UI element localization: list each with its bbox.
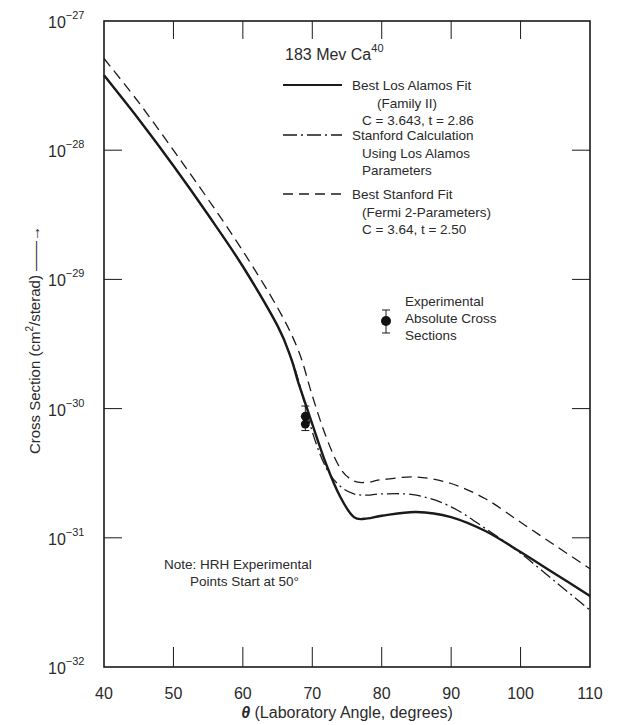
curve-solid xyxy=(104,75,590,596)
legend: Best Los Alamos Fit(Family II)C = 3.643,… xyxy=(283,78,491,237)
legend-text: Best Stanford Fit xyxy=(352,187,453,202)
y-axis-label: Cross Section (cm2/sterad) ——→ xyxy=(24,226,43,454)
x-axis-ticks: 405060708090100110 xyxy=(95,21,603,702)
y-tick-label: 10−27 xyxy=(48,9,84,31)
x-tick-label: 110 xyxy=(577,685,603,702)
note-annotation: Note: HRH Experimental Points Start at 5… xyxy=(164,557,312,589)
legend-points-entry: Experimental Absolute Cross Sections xyxy=(381,294,497,343)
x-tick-label: 40 xyxy=(95,685,113,702)
data-point xyxy=(301,412,310,421)
legend-text: C = 3.64, t = 2.50 xyxy=(362,222,466,237)
y-tick-label: 10−30 xyxy=(48,397,84,419)
y-tick-label: 10−31 xyxy=(48,526,84,548)
legend-text: Stanford Calculation xyxy=(352,128,474,143)
x-axis-label: θ (Laboratory Angle, degrees) xyxy=(241,704,453,721)
y-tick-label: 10−32 xyxy=(48,655,84,677)
curve-dashed xyxy=(104,59,590,569)
chart: 405060708090100110 10−2710−2810−2910−301… xyxy=(0,0,617,725)
x-tick-label: 70 xyxy=(303,685,321,702)
svg-text:Absolute Cross: Absolute Cross xyxy=(405,311,497,326)
x-tick-label: 100 xyxy=(507,685,534,702)
legend-text: (Family II) xyxy=(377,96,437,111)
svg-text:Experimental: Experimental xyxy=(405,294,484,309)
x-tick-label: 80 xyxy=(373,685,391,702)
x-tick-label: 50 xyxy=(165,685,183,702)
legend-text: Best Los Alamos Fit xyxy=(352,78,472,93)
y-tick-label: 10−28 xyxy=(48,138,84,160)
x-tick-label: 90 xyxy=(442,685,460,702)
curves xyxy=(104,59,590,611)
data-point xyxy=(301,420,310,429)
svg-text:Points Start at 50°: Points Start at 50° xyxy=(190,574,299,589)
x-tick-label: 60 xyxy=(234,685,252,702)
y-axis-ticks: 10−2710−2810−2910−3010−3110−32 xyxy=(48,9,590,677)
svg-text:Sections: Sections xyxy=(405,328,457,343)
svg-text:Note: HRH Experimental: Note: HRH Experimental xyxy=(164,557,312,572)
legend-text: Parameters xyxy=(362,163,432,178)
legend-text: Using Los Alamos xyxy=(362,146,470,161)
legend-text: C = 3.643, t = 2.86 xyxy=(362,113,474,128)
legend-title: 183 Mev Ca40 xyxy=(285,42,384,63)
y-tick-label: 10−29 xyxy=(48,267,84,289)
legend-text: (Fermi 2-Parameters) xyxy=(362,205,491,220)
